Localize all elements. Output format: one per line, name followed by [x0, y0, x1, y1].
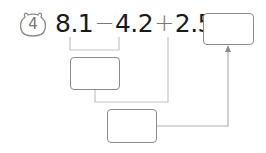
problem-number: 4	[19, 15, 47, 33]
step-1-box[interactable]	[70, 57, 120, 90]
minus-operator: −	[94, 9, 114, 37]
plus-operator: +	[154, 9, 174, 37]
arrowhead-icon	[225, 45, 231, 52]
answer-box[interactable]	[203, 13, 254, 45]
step-2-box[interactable]	[107, 109, 157, 143]
problem-number-badge: 4	[19, 11, 47, 37]
term-1: 8.1	[55, 9, 93, 38]
term-2: 4.2	[115, 9, 153, 38]
bracket-first-step	[70, 37, 119, 50]
